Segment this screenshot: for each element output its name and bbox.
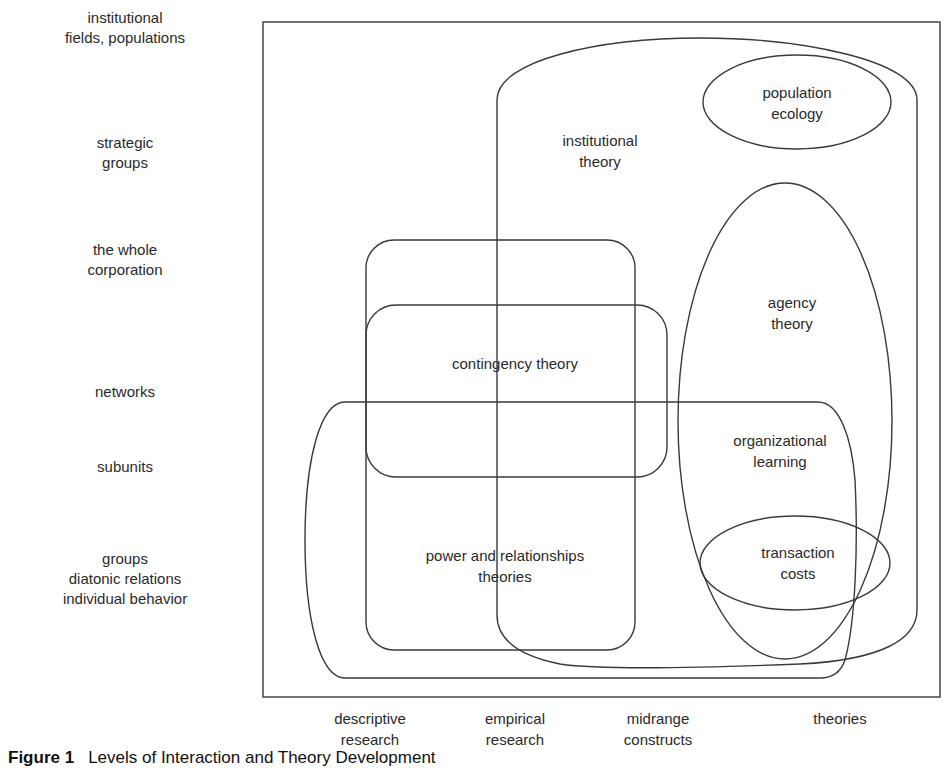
x-level-theories: theories [770, 708, 910, 729]
figure-caption: Figure 1Levels of Interaction and Theory… [8, 748, 436, 768]
figure-title: Levels of Interaction and Theory Develop… [88, 748, 435, 767]
x-level-descriptive-research: descriptive research [300, 708, 440, 750]
label-population-ecology: population ecology [717, 82, 877, 124]
agency-theory-shape [678, 183, 892, 659]
x-level-empirical-research: empirical research [445, 708, 585, 750]
label-institutional-theory: institutional theory [520, 130, 680, 172]
label-agency-theory: agency theory [712, 292, 872, 334]
figure-label: Figure 1 [8, 748, 74, 767]
label-power-relationships: power and relationships theories [385, 545, 625, 587]
x-level-midrange-constructs: midrange constructs [588, 708, 728, 750]
power-relationships-shape [366, 240, 635, 650]
label-organizational-learning: organizational learning [700, 430, 860, 472]
label-contingency-theory: contingency theory [400, 353, 630, 374]
label-transaction-costs: transaction costs [718, 542, 878, 584]
contingency-theory-shape [366, 305, 667, 477]
